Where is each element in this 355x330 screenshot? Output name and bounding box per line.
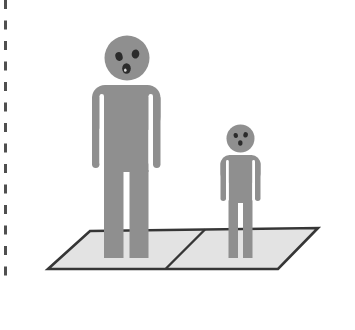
small-person-right-leg — [243, 203, 253, 258]
small-person-right-arm-gap — [252, 160, 255, 201]
large-person-left-leg — [104, 170, 124, 258]
large-person-right-leg — [130, 170, 149, 258]
large-person-head — [105, 36, 150, 81]
large-person-right-arm — [153, 95, 161, 168]
illustration-canvas — [0, 0, 355, 330]
floor-surface — [48, 228, 318, 269]
small-person-left-leg — [229, 203, 239, 258]
floor — [48, 228, 318, 269]
small-person-torso — [229, 165, 253, 203]
large-person-torso — [104, 100, 149, 172]
large-person-left-arm-gap — [100, 94, 105, 165]
small-person-right-arm — [255, 161, 261, 201]
large-person-mouth-highlight — [124, 69, 127, 72]
small-person-mouth — [238, 140, 242, 145]
large-person-mouth — [122, 63, 131, 73]
small-person-left-arm — [221, 161, 227, 201]
large-person-left-arm — [92, 95, 100, 168]
small-person-left-arm-gap — [226, 160, 229, 201]
large-person-right-arm-gap — [149, 94, 154, 165]
small-person-head — [227, 125, 255, 153]
large-person-figure — [92, 36, 161, 259]
scene-svg — [0, 0, 355, 330]
